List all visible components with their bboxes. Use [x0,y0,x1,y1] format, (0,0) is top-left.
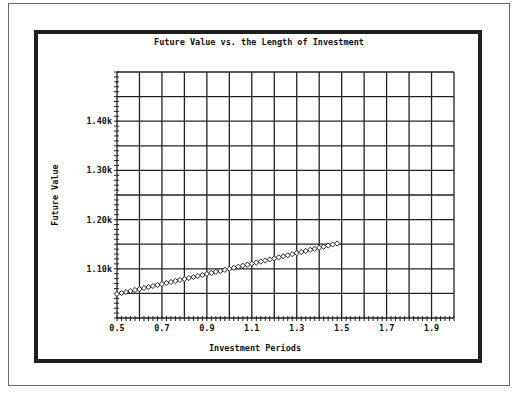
y-tick-label: 1.10k [86,264,112,274]
y-tick-label: 1.30k [86,165,112,175]
data-point [159,281,164,286]
data-point [231,265,236,270]
data-point [272,256,277,261]
data-point [168,279,173,284]
data-point [222,267,227,272]
data-point [303,248,308,253]
data-point [150,283,155,288]
data-point [177,277,182,282]
x-tick-label: 1.9 [424,323,439,333]
x-tick-label: 0.9 [199,323,214,333]
data-point [240,263,245,268]
data-point [227,266,232,271]
data-point [173,278,178,283]
data-point [258,259,263,264]
data-point [317,245,322,250]
data-point [330,242,335,247]
data-point [281,254,286,259]
data-point [263,258,268,263]
data-point [267,257,272,262]
data-point [132,287,137,292]
data-point [312,246,317,251]
data-point [209,270,214,275]
chart-canvas: Future Value vs. the Length of Investmen… [0,0,517,393]
y-tick-labels: 1.10k1.20k1.30k1.40k [86,116,112,274]
x-tick-labels: 0.50.70.91.11.31.51.71.9 [109,323,439,333]
data-point [308,247,313,252]
data-point [155,282,160,287]
data-point [186,275,191,280]
data-point [146,284,151,289]
x-tick-label: 1.1 [244,323,259,333]
data-point [114,291,119,296]
data-point [182,276,187,281]
data-point [204,271,209,276]
data-point [245,262,250,267]
x-axis-label: Investment Periods [209,343,301,353]
data-point [335,241,340,246]
data-point [254,260,259,265]
y-axis-label: Future Value [50,164,60,225]
x-tick-label: 1.3 [289,323,304,333]
data-point [191,274,196,279]
data-point [249,261,254,266]
data-point [200,272,205,277]
data-point [285,253,290,258]
data-point [119,290,124,295]
data-point [141,285,146,290]
data-point [294,250,299,255]
chart-title: Future Value vs. the Length of Investmen… [154,37,364,47]
data-point [137,286,142,291]
data-point [299,249,304,254]
data-point [164,280,169,285]
data-point [213,269,218,274]
y-tick-label: 1.40k [86,116,112,126]
x-tick-label: 0.7 [154,323,169,333]
x-tick-label: 0.5 [109,323,124,333]
y-tick-label: 1.20k [86,215,112,225]
x-tick-label: 1.5 [334,323,349,333]
data-point [276,255,281,260]
x-tick-label: 1.7 [379,323,394,333]
data-point [290,252,295,257]
data-point [195,273,200,278]
